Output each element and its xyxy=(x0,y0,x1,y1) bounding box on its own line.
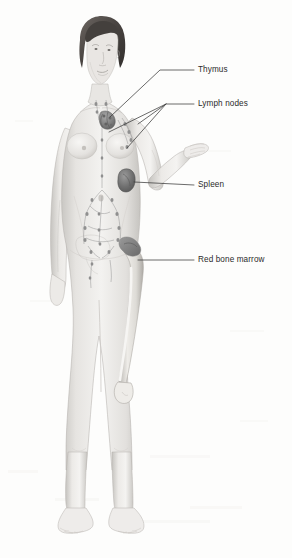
lymph-nodes-leader-line-2 xyxy=(127,104,166,148)
label-lymph-nodes: Lymph nodes xyxy=(198,99,248,109)
label-spleen: Spleen xyxy=(198,180,224,190)
lymphatic-system-figure: Thymus Lymph nodes Spleen Red bone marro… xyxy=(0,0,292,558)
lymph-nodes-leader-line-1 xyxy=(109,104,194,132)
spleen-leader-line xyxy=(134,182,194,185)
label-red-bone-marrow: Red bone marrow xyxy=(198,255,265,265)
lymph-nodes-leader-line-3 xyxy=(138,104,166,124)
thymus-leader-line xyxy=(110,70,194,117)
callout-leader-lines xyxy=(0,0,292,558)
label-thymus: Thymus xyxy=(198,65,228,75)
